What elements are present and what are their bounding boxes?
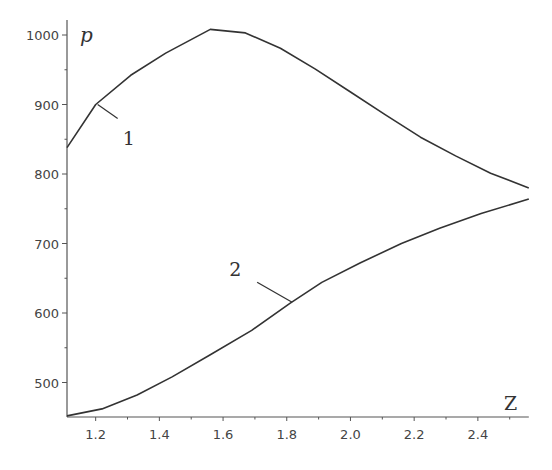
x-axis-label: Z: [504, 392, 517, 414]
y-tick-label: 600: [34, 306, 59, 321]
curve-label-1: 1: [123, 127, 135, 149]
series-group: [67, 29, 529, 416]
series-line-2: [67, 199, 529, 416]
axes: 1.21.41.61.82.02.22.45006007008009001000…: [26, 20, 529, 442]
x-tick-label: 1.6: [213, 427, 234, 442]
curve-label-2: 2: [229, 258, 241, 280]
x-tick-label: 1.8: [276, 427, 297, 442]
y-tick-label: 500: [34, 376, 59, 391]
y-tick-label: 800: [34, 167, 59, 182]
line-chart: 1.21.41.61.82.02.22.45006007008009001000…: [0, 0, 552, 470]
x-tick-label: 2.2: [404, 427, 425, 442]
y-tick-label: 900: [34, 98, 59, 113]
x-tick-label: 1.4: [149, 427, 170, 442]
y-tick-label: 700: [34, 237, 59, 252]
y-axis-label: p: [80, 23, 93, 47]
x-tick-label: 2.4: [468, 427, 489, 442]
y-tick-label: 1000: [26, 28, 59, 43]
x-tick-label: 1.2: [85, 427, 106, 442]
leader-line-1: [98, 105, 118, 119]
leader-line-2: [257, 282, 292, 302]
x-tick-label: 2.0: [340, 427, 361, 442]
annotations: 12: [98, 105, 292, 303]
series-line-1: [67, 29, 529, 188]
